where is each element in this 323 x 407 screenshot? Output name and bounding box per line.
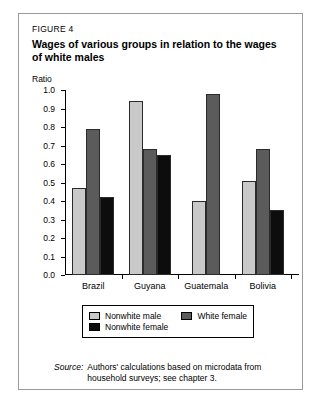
y-axis-tick-label: 0.3 bbox=[43, 215, 55, 225]
y-axis-tick-label: 0.1 bbox=[43, 252, 55, 262]
y-axis-tick: 0.0 bbox=[61, 275, 65, 276]
x-axis-tick bbox=[178, 275, 179, 279]
legend-item-nonwhite-male: Nonwhite male bbox=[89, 311, 181, 321]
source-word: Source: bbox=[54, 362, 83, 372]
bar bbox=[100, 197, 114, 275]
y-axis-label: Ratio bbox=[32, 74, 52, 84]
x-axis-category-label: Guatemala bbox=[184, 281, 228, 291]
y-axis-tick-label: 1.0 bbox=[43, 85, 55, 95]
chart-legend: Nonwhite male White female Nonwhite fema… bbox=[82, 305, 254, 338]
x-axis-tick bbox=[291, 275, 292, 279]
legend-swatch-icon bbox=[181, 312, 192, 320]
bar bbox=[72, 188, 86, 275]
bar-chart-plot: 0.00.10.20.30.40.50.60.70.80.91.0BrazilG… bbox=[65, 90, 291, 275]
y-axis-tick-label: 0.5 bbox=[43, 178, 55, 188]
source-text: Authors' calculations based on microdata… bbox=[87, 362, 283, 384]
x-axis-tick bbox=[235, 275, 236, 279]
legend-label: White female bbox=[197, 311, 247, 321]
legend-row: Nonwhite male White female bbox=[89, 311, 247, 321]
bar bbox=[256, 149, 270, 275]
x-axis-category-label: Bolivia bbox=[249, 281, 276, 291]
figure-number: FIGURE 4 bbox=[32, 24, 74, 34]
legend-label: Nonwhite female bbox=[105, 322, 168, 332]
bar bbox=[157, 155, 171, 275]
x-axis-category-label: Brazil bbox=[82, 281, 105, 291]
y-axis-tick-label: 0.0 bbox=[43, 270, 55, 280]
legend-swatch-icon bbox=[89, 323, 100, 331]
legend-label: Nonwhite male bbox=[105, 311, 161, 321]
y-axis-tick-label: 0.4 bbox=[43, 196, 55, 206]
y-axis-tick-label: 0.9 bbox=[43, 104, 55, 114]
x-axis-tick bbox=[122, 275, 123, 279]
y-axis-tick-label: 0.8 bbox=[43, 122, 55, 132]
bar-group: Bolivia bbox=[235, 90, 292, 275]
bar bbox=[86, 129, 100, 275]
plot-area: 0.00.10.20.30.40.50.60.70.80.91.0BrazilG… bbox=[65, 90, 291, 275]
bar-group: Brazil bbox=[65, 90, 122, 275]
legend-item-white-female: White female bbox=[181, 311, 247, 321]
bar-group: Guatemala bbox=[178, 90, 235, 275]
y-axis-tick-label: 0.7 bbox=[43, 141, 55, 151]
bar bbox=[192, 201, 206, 275]
bar bbox=[270, 210, 284, 275]
figure-title: Wages of various groups in relation to t… bbox=[32, 38, 282, 63]
bar bbox=[143, 149, 157, 275]
legend-item-nonwhite-female: Nonwhite female bbox=[89, 322, 186, 332]
bar bbox=[242, 181, 256, 275]
bar bbox=[129, 101, 143, 275]
figure-frame: FIGURE 4 Wages of various groups in rela… bbox=[18, 13, 303, 390]
bar-group: Guyana bbox=[122, 90, 179, 275]
y-axis-tick-label: 0.6 bbox=[43, 159, 55, 169]
bar bbox=[206, 94, 220, 275]
x-axis-category-label: Guyana bbox=[134, 281, 166, 291]
legend-swatch-icon bbox=[89, 312, 100, 320]
source-note: Source:Authors' calculations based on mi… bbox=[54, 362, 294, 384]
y-axis-tick-label: 0.2 bbox=[43, 233, 55, 243]
legend-row: Nonwhite female bbox=[89, 322, 247, 332]
